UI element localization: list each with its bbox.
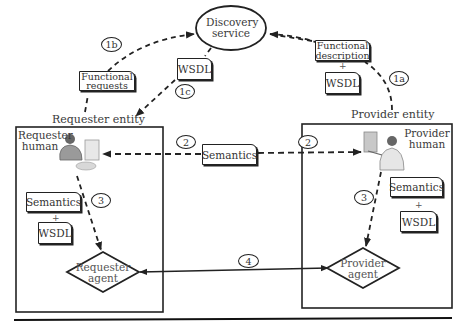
provider-entity-label: Provider entity <box>351 109 435 120</box>
functional-description-line2: description <box>315 51 369 61</box>
provider-agent-line2: agent <box>333 269 393 280</box>
bottom-rule <box>14 318 452 320</box>
step-2-right-badge: 2 <box>298 135 318 149</box>
requester-human-label-line2: human <box>18 141 62 152</box>
requester-human-label: Requester human <box>18 130 62 152</box>
semantics-center-doc: Semantics <box>202 144 257 165</box>
step-3-right-badge: 3 <box>354 190 374 205</box>
step-1a-badge: 1a <box>389 71 409 86</box>
requester-agent-line2: agent <box>73 273 133 284</box>
fd-plus: + <box>339 61 347 71</box>
functional-requests-doc: Functional requests <box>79 71 135 91</box>
fd-wsdl-doc: WSDL <box>325 72 360 94</box>
flow-2-right-arrow <box>258 152 361 153</box>
requester-wsdl-doc: WSDL <box>38 222 72 244</box>
provider-agent-label: Provider agent <box>333 258 393 280</box>
provider-wsdl-doc: WSDL <box>400 211 437 232</box>
flow-3-right-arrow <box>366 172 381 246</box>
flow-4-arrow <box>140 268 328 272</box>
discovery-label-line2: service <box>206 28 256 39</box>
requester-entity-label: Requester entity <box>52 114 145 125</box>
step-4-badge: 4 <box>238 254 259 268</box>
step-1b-badge: 1b <box>101 37 122 52</box>
step-2-left-badge: 2 <box>176 135 196 149</box>
provider-plus: + <box>415 200 423 210</box>
discovery-service-label: Discovery service <box>206 17 256 39</box>
provider-semantics-doc: Semantics <box>390 177 443 197</box>
functional-requests-line2: requests <box>86 81 128 91</box>
requester-agent-label: Requester agent <box>73 262 133 284</box>
step-1c-badge: 1c <box>175 84 195 99</box>
functional-description-doc: Functional description <box>315 40 370 61</box>
requester-semantics-doc: Semantics <box>26 192 81 212</box>
diagram-canvas <box>0 0 464 331</box>
flow-3-left-arrow <box>77 176 101 250</box>
provider-human-label: Provider human <box>404 128 450 150</box>
step-3-left-badge: 3 <box>91 193 111 208</box>
provider-human-icon <box>364 132 404 170</box>
provider-human-label-line2: human <box>404 139 450 150</box>
wsdl-discovery-doc: WSDL <box>177 58 212 80</box>
